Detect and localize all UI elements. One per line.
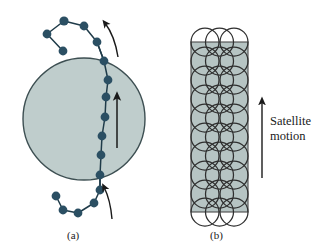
panel-a (23, 16, 145, 219)
satellite-dot (59, 206, 68, 215)
satellite-dot (104, 76, 113, 85)
figure-container: Satellite motion (a) (b) (0, 0, 316, 251)
satellite-dot (43, 30, 52, 39)
figure-canvas (0, 0, 316, 251)
satellite-dot (101, 113, 110, 122)
orbit-direction-arrow-bottom (104, 187, 112, 219)
satellite-dot (74, 209, 83, 218)
satellite-dot (59, 16, 68, 25)
panel-b (191, 28, 262, 226)
satellite-dot (100, 57, 109, 66)
orbit-direction-arrow-top (105, 23, 118, 57)
earth-sphere (23, 58, 145, 180)
satellite-motion-label-line1: Satellite (270, 114, 316, 129)
satellite-dot (93, 38, 102, 47)
satellite-motion-label-line2: motion (270, 129, 316, 144)
satellite-dot (97, 151, 106, 160)
satellite-dot (90, 199, 99, 208)
satellite-dot (98, 132, 107, 141)
satellite-dot (96, 171, 105, 180)
satellite-dot (80, 22, 89, 31)
panel-b-caption: (b) (210, 229, 223, 241)
panel-a-caption: (a) (67, 229, 79, 241)
satellite-dot (102, 93, 111, 102)
satellite-dot (96, 186, 105, 195)
satellite-motion-label: Satellite motion (270, 114, 316, 144)
satellite-dot (52, 192, 61, 201)
satellite-dot (59, 47, 68, 56)
